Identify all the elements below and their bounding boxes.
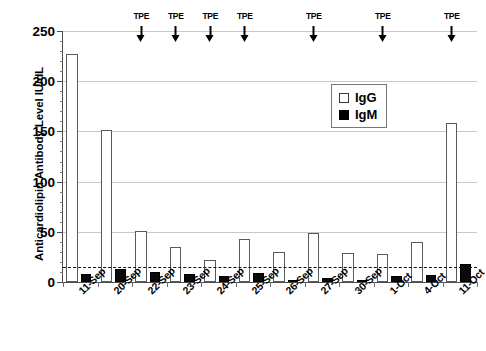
y-axis-minor-tick: [60, 71, 64, 72]
bar-igg: [101, 130, 112, 282]
arrow-down-icon: [206, 26, 215, 42]
y-axis-tick-label: 200: [32, 74, 55, 89]
tpe-label: TPE: [375, 11, 391, 21]
y-axis-minor-tick: [60, 242, 64, 243]
bar-igg: [446, 123, 457, 282]
y-axis-tick: [57, 81, 63, 82]
y-axis-minor-tick: [60, 121, 64, 122]
tpe-label: TPE: [444, 11, 460, 21]
y-axis-tick-label: 150: [32, 124, 55, 139]
y-axis-tick: [57, 131, 63, 132]
y-axis-tick: [57, 182, 63, 183]
gridline: [63, 81, 477, 82]
y-axis-minor-tick: [60, 272, 64, 273]
arrow-down-icon: [137, 26, 146, 42]
legend-swatch-filled-square-icon: [339, 110, 349, 120]
bar-igg: [411, 242, 422, 282]
plot-area: 050100150200250: [62, 31, 477, 283]
legend-item-igg: IgG: [339, 89, 377, 106]
y-axis-minor-tick: [60, 162, 64, 163]
arrow-down-icon: [240, 26, 249, 42]
y-axis-minor-tick: [60, 202, 64, 203]
tpe-label: TPE: [202, 11, 218, 21]
y-axis-tick-label: 250: [32, 24, 55, 39]
tpe-label: TPE: [306, 11, 322, 21]
y-axis-minor-tick: [60, 111, 64, 112]
x-axis-tick: [63, 282, 64, 287]
y-axis-minor-tick: [60, 91, 64, 92]
bar-igg: [66, 54, 77, 282]
y-axis-minor-tick: [60, 252, 64, 253]
legend-swatch-open-square-icon: [339, 93, 349, 103]
gridline: [63, 182, 477, 183]
gridline: [63, 232, 477, 233]
tpe-label: TPE: [237, 11, 253, 21]
arrow-down-icon: [309, 26, 318, 42]
y-axis-minor-tick: [60, 41, 64, 42]
y-axis-minor-tick: [60, 151, 64, 152]
gridline: [63, 131, 477, 132]
legend-label-igg: IgG: [355, 91, 377, 104]
arrow-down-icon: [171, 26, 180, 42]
y-axis-minor-tick: [60, 222, 64, 223]
chart-legend: IgG IgM: [331, 84, 387, 128]
legend-label-igm: IgM: [355, 108, 377, 121]
y-axis-tick-label: 0: [47, 275, 55, 290]
y-axis-minor-tick: [60, 212, 64, 213]
y-axis-tick-label: 100: [32, 174, 55, 189]
y-axis-minor-tick: [60, 192, 64, 193]
arrow-down-icon: [447, 26, 456, 42]
y-axis-tick: [57, 31, 63, 32]
arrow-down-icon: [378, 26, 387, 42]
tpe-label: TPE: [133, 11, 149, 21]
y-axis-tick-label: 50: [40, 224, 55, 239]
y-axis-tick: [57, 232, 63, 233]
legend-item-igm: IgM: [339, 106, 377, 123]
y-axis-minor-tick: [60, 262, 64, 263]
y-axis-minor-tick: [60, 101, 64, 102]
y-axis-minor-tick: [60, 51, 64, 52]
tpe-label: TPE: [168, 11, 184, 21]
y-axis-minor-tick: [60, 61, 64, 62]
gridline: [63, 31, 477, 32]
y-axis-minor-tick: [60, 141, 64, 142]
y-axis-minor-tick: [60, 172, 64, 173]
